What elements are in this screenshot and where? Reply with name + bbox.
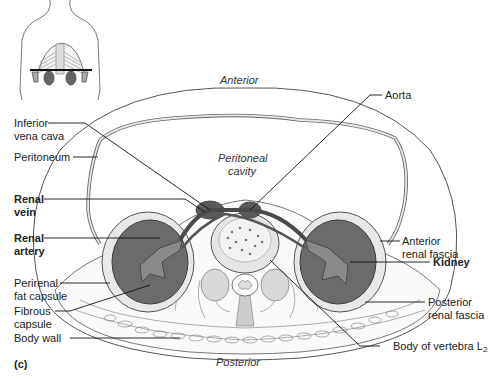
transverse-process-left bbox=[201, 269, 229, 301]
label-peritoneal-cavity-1: Peritoneal bbox=[218, 152, 268, 165]
label-posterior-renal-fascia-2: renal fascia bbox=[428, 309, 484, 322]
label-vertebra-subscript: 2 bbox=[483, 345, 487, 354]
kidney-cross-section-diagram bbox=[0, 0, 490, 379]
label-aorta: Aorta bbox=[385, 89, 411, 102]
label-fibrous-capsule-1: Fibrous bbox=[14, 305, 51, 318]
label-kidney: Kidney bbox=[433, 256, 470, 269]
label-renal-artery-2: artery bbox=[14, 245, 45, 258]
label-perirenal-fat-capsule-1: Perirenal bbox=[14, 277, 58, 290]
label-peritoneum: Peritoneum bbox=[14, 151, 70, 164]
label-anterior: Anterior bbox=[220, 74, 259, 87]
label-peritoneal-cavity-2: cavity bbox=[228, 165, 256, 178]
label-body-wall: Body wall bbox=[14, 332, 61, 345]
left-kidney bbox=[102, 212, 194, 312]
panel-label: (c) bbox=[14, 358, 27, 371]
label-posterior-renal-fascia-1: Posterior bbox=[428, 296, 472, 309]
label-anterior-renal-fascia-1: Anterior bbox=[402, 235, 441, 248]
label-fibrous-capsule-2: capsule bbox=[14, 318, 52, 331]
label-body-of-vertebra: Body of vertebra L2 bbox=[393, 340, 487, 356]
label-inferior-vena-cava-2: vena cava bbox=[14, 130, 64, 143]
label-renal-artery-1: Renal bbox=[14, 232, 44, 245]
label-renal-vein-2: vein bbox=[14, 206, 36, 219]
label-posterior: Posterior bbox=[216, 356, 260, 369]
label-renal-vein-1: Renal bbox=[14, 193, 44, 206]
label-body-of-vertebra-text: Body of vertebra L bbox=[393, 340, 483, 352]
label-inferior-vena-cava-1: Inferior bbox=[14, 117, 48, 130]
label-perirenal-fat-capsule-2: fat capsule bbox=[14, 290, 67, 303]
torso-inset-icon bbox=[20, 0, 100, 100]
